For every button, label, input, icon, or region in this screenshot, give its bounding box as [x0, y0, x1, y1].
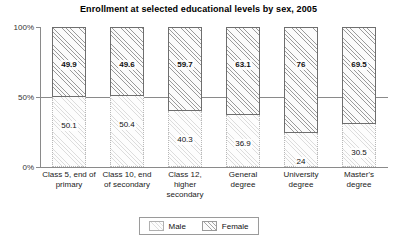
bar-value-label-female: 63.1 — [234, 60, 252, 70]
y-axis-tick-label: 50% — [18, 93, 34, 102]
x-axis-category-label: Class 10, endof secondary — [98, 170, 156, 190]
bar-segment-female: 69.5 — [342, 27, 376, 124]
stacked-bar-chart: Enrollment at selected educational level… — [0, 0, 397, 248]
bar-group: 2476 — [272, 27, 330, 167]
plot-area: 100%50%0% 50.149.950.449.640.359.736.963… — [40, 27, 388, 167]
stacked-bar: 50.449.6 — [110, 27, 144, 167]
bar-value-label-female: 59.7 — [176, 60, 194, 70]
bar-segment-male: 50.4 — [110, 96, 144, 167]
chart-title: Enrollment at selected educational level… — [0, 4, 397, 14]
x-axis-category-label: Generaldegree — [214, 170, 272, 190]
bar-value-label-male: 24 — [296, 157, 307, 167]
stacked-bar: 50.149.9 — [52, 27, 86, 167]
bar-segment-male: 30.5 — [342, 124, 376, 167]
bar-segment-female: 59.7 — [168, 27, 202, 111]
y-axis-tick — [36, 167, 41, 168]
bar-segment-female: 49.6 — [110, 27, 144, 96]
bar-value-label-female: 69.5 — [350, 60, 368, 70]
legend-label: Male — [168, 222, 185, 231]
x-axis-category-label: Class 12,highersecondary — [156, 170, 214, 200]
stacked-bar: 30.569.5 — [342, 27, 376, 167]
bar-value-label-male: 50.4 — [118, 120, 136, 130]
bar-group: 30.569.5 — [330, 27, 388, 167]
x-axis-category-label: Universitydegree — [272, 170, 330, 190]
bar-segment-male: 24 — [284, 133, 318, 167]
bar-value-label-female: 49.6 — [118, 60, 136, 70]
bar-value-label-male: 30.5 — [350, 148, 368, 158]
x-axis-category-label: Class 5, end ofprimary — [40, 170, 98, 190]
bar-series-container: 50.149.950.449.640.359.736.963.1247630.5… — [40, 27, 388, 167]
stacked-bar: 36.963.1 — [226, 27, 260, 167]
legend-entry: Male — [148, 221, 185, 231]
bar-segment-female: 63.1 — [226, 27, 260, 115]
bar-value-label-male: 36.9 — [234, 139, 252, 149]
x-axis-category-label: Master'sdegree — [330, 170, 388, 190]
bar-value-label-male: 50.1 — [60, 121, 78, 131]
hatch-light-swatch — [148, 221, 163, 231]
legend-entry: Female — [202, 221, 249, 231]
legend-label: Female — [222, 222, 249, 231]
bar-group: 50.449.6 — [98, 27, 156, 167]
bar-segment-female: 76 — [284, 27, 318, 133]
bar-segment-female: 49.9 — [52, 27, 86, 97]
bar-segment-male: 40.3 — [168, 111, 202, 167]
x-axis-line — [40, 167, 388, 168]
stacked-bar: 2476 — [284, 27, 318, 167]
bar-group: 40.359.7 — [156, 27, 214, 167]
chart-legend: MaleFemale — [138, 217, 258, 235]
y-axis-tick-label: 0% — [22, 163, 34, 172]
bar-value-label-female: 76 — [296, 60, 307, 70]
bar-group: 50.149.9 — [40, 27, 98, 167]
bar-value-label-male: 40.3 — [176, 135, 194, 145]
bar-value-label-female: 49.9 — [60, 60, 78, 70]
stacked-bar: 40.359.7 — [168, 27, 202, 167]
y-axis-tick-label: 100% — [14, 23, 34, 32]
bar-group: 36.963.1 — [214, 27, 272, 167]
bar-segment-male: 36.9 — [226, 115, 260, 167]
bar-segment-male: 50.1 — [52, 97, 86, 167]
x-axis-category-labels: Class 5, end ofprimaryClass 10, endof se… — [40, 170, 388, 208]
hatch-dense-swatch — [202, 221, 217, 231]
